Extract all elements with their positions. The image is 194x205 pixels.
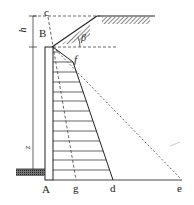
label-g: g — [73, 183, 79, 194]
label-f: f — [74, 54, 77, 65]
top-ground-hatch — [102, 17, 150, 24]
label-c: c — [44, 7, 49, 18]
label-d: d — [110, 183, 116, 194]
label-A: A — [42, 184, 50, 195]
label-z: z — [23, 146, 32, 150]
stray-mark — [170, 142, 180, 146]
retaining-wall — [45, 47, 53, 180]
diagram-drawing — [0, 0, 194, 205]
label-e: e — [177, 183, 182, 194]
label-B: B — [39, 28, 46, 39]
dashed-line-to-e — [53, 47, 180, 178]
label-beta: β — [81, 33, 86, 43]
pressure-hatch-lines — [53, 52, 110, 170]
label-h: h — [18, 28, 28, 33]
left-ground-hatch — [16, 169, 45, 176]
earth-pressure-diagram: c B β h z f A g d e — [0, 0, 194, 205]
slope-surface — [52, 16, 97, 47]
